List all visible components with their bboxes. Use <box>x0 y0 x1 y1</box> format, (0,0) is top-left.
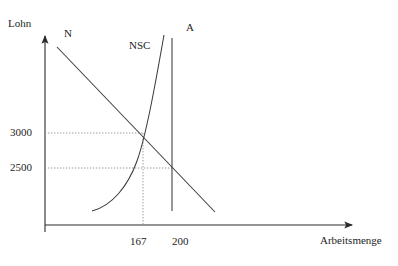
diagram-canvas <box>0 0 398 266</box>
y-tick-label-2500: 2500 <box>10 162 32 173</box>
curve-label-n: N <box>64 28 72 39</box>
x-axis-title: Arbeitsmenge <box>320 235 382 246</box>
labor-demand-curve-n <box>57 47 215 212</box>
no-shirking-curve-nsc <box>92 35 164 211</box>
labor-market-diagram: Lohn Arbeitsmenge N NSC A 3000 2500 167 … <box>0 0 398 266</box>
x-tick-label-200: 200 <box>172 236 189 247</box>
x-tick-label-167: 167 <box>130 236 147 247</box>
curve-label-a: A <box>186 22 194 33</box>
y-tick-label-3000: 3000 <box>10 127 32 138</box>
y-axis-title: Lohn <box>8 18 31 29</box>
curve-label-nsc: NSC <box>129 40 150 51</box>
